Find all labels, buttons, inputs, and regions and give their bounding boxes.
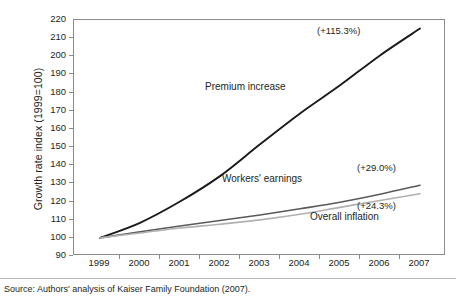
annotation-premium-increase: Premium increase — [205, 82, 286, 92]
annotation-workers-percent: (+29.0%) — [357, 163, 396, 173]
x-axis-tick-labels: 199920002001200220032004200520062007 — [0, 258, 456, 276]
x-axis-tick-marks — [0, 0, 456, 299]
x-tick-label: 2007 — [396, 258, 442, 268]
annotation-workers-earnings: Workers' earnings — [222, 174, 302, 184]
annotation-premium-percent: (+115.3%) — [317, 26, 360, 36]
chart-figure: Growth rate index (1999=100) 90100110120… — [0, 0, 456, 299]
source-divider: Source: Authors' analysis of Kaiser Fami… — [0, 278, 456, 294]
annotation-overall-inflation: Overall inflation — [310, 212, 379, 222]
source-note: Source: Authors' analysis of Kaiser Fami… — [0, 284, 456, 294]
annotation-inflation-percent: (+24.3%) — [357, 201, 396, 211]
